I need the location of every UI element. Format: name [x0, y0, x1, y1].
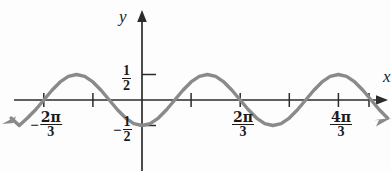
graph-canvas — [0, 0, 391, 171]
x-tick-label-two-pi-thirds: 2π 3 — [232, 110, 254, 140]
minus-sign: − — [30, 118, 39, 133]
fraction-denominator: 2 — [123, 130, 132, 144]
y-axis-label: y — [119, 8, 127, 25]
y-tick-label-neg-half: − 1 2 — [113, 115, 132, 145]
minus-sign: − — [113, 123, 122, 138]
x-axis-arrowhead — [376, 95, 388, 105]
x-axis-label: x — [383, 68, 391, 85]
y-axis-arrowhead — [137, 10, 147, 22]
fraction-denominator: 3 — [239, 125, 248, 139]
fraction-two-pi-thirds: 2π 3 — [40, 110, 62, 140]
signed-fraction-neg-two-pi-thirds: − 2π 3 — [30, 110, 62, 140]
x-tick-label-neg-two-pi-thirds: − 2π 3 — [30, 110, 62, 140]
fraction-denominator: 2 — [122, 79, 131, 93]
sine-graph-figure: y x 1 2 − 1 2 − 2π 3 2π 3 — [0, 0, 391, 171]
fraction-denominator: 3 — [46, 125, 55, 139]
y-tick-label-pos-half: 1 2 — [122, 64, 131, 94]
fraction-four-pi-thirds: 4π 3 — [330, 110, 352, 140]
fraction-denominator: 3 — [337, 125, 346, 139]
fraction-numerator: 2π — [232, 110, 254, 125]
fraction-numerator: 1 — [123, 115, 132, 130]
signed-fraction-neg-one-half: − 1 2 — [113, 115, 132, 145]
fraction-numerator: 4π — [330, 110, 352, 125]
fraction-numerator: 1 — [122, 64, 131, 79]
curve-right-arrowhead — [373, 118, 391, 127]
fraction-numerator: 2π — [40, 110, 62, 125]
x-tick-label-four-pi-thirds: 4π 3 — [330, 110, 352, 140]
fraction-two-pi-thirds: 2π 3 — [232, 110, 254, 140]
fraction-one-half: 1 2 — [122, 64, 131, 94]
fraction-one-half: 1 2 — [123, 115, 132, 145]
